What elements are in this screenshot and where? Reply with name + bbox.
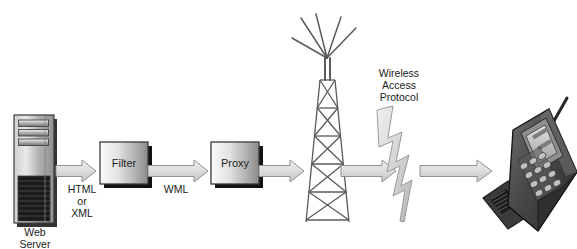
wap-label-line2: Access xyxy=(382,79,416,91)
diagram-svg: Web Server HTML or XML Filter WML Proxy xyxy=(0,0,577,249)
server-slot xyxy=(19,120,49,127)
edge-label-xml: XML xyxy=(71,207,93,219)
wap-label-line1: Wireless xyxy=(379,67,419,79)
edge-proxy-to-tower xyxy=(259,160,304,182)
edge-filter-to-proxy xyxy=(148,160,208,182)
edge-server-to-filter xyxy=(56,160,96,182)
antenna-spokes-icon xyxy=(292,14,356,58)
block-arrow-right-icon xyxy=(148,160,208,182)
radio-tower-node xyxy=(292,14,356,80)
proxy-label: Proxy xyxy=(221,157,250,169)
block-arrow-right-icon xyxy=(420,160,492,182)
server-slot xyxy=(19,139,49,146)
web-server-label-line2: Server xyxy=(20,238,51,249)
edge-label-html: HTML xyxy=(68,183,97,195)
edge-air-to-phone xyxy=(420,160,492,182)
filter-label: Filter xyxy=(112,157,137,169)
edge-label-wml: WML xyxy=(164,183,189,195)
block-arrow-right-icon xyxy=(56,160,96,182)
server-slot xyxy=(19,130,49,137)
block-arrow-right-icon xyxy=(259,160,304,182)
web-server-node xyxy=(14,115,57,227)
web-server-label-line1: Web xyxy=(24,226,46,238)
diagram-canvas: Web Server HTML or XML Filter WML Proxy xyxy=(0,0,577,249)
mobile-phone-node xyxy=(483,98,577,231)
wap-label-line3: Protocol xyxy=(380,91,419,103)
radio-tower-icon xyxy=(306,80,349,222)
edge-label-or: or xyxy=(77,195,87,207)
